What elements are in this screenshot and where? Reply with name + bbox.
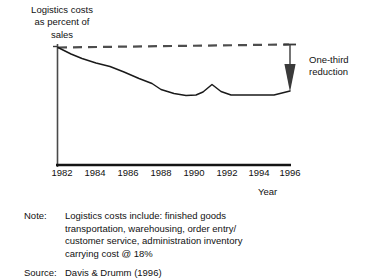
note-line-2: transportation, warehousing, order entry… bbox=[65, 223, 324, 236]
x-tick-label-1986: 1986 bbox=[111, 167, 145, 178]
chart-footnotes: Note: Logistics costs include: finished … bbox=[24, 210, 324, 280]
note-label: Note: bbox=[24, 210, 65, 223]
reduction-annotation-line-2: reduction bbox=[309, 66, 349, 78]
x-axis-label: Year bbox=[258, 186, 277, 197]
source-line-1: Davis & Drumm (1996) bbox=[65, 267, 324, 280]
chart-plot-area: 1982 1984 1986 1988 1990 1992 1994 1996 … bbox=[0, 0, 371, 200]
x-tick-label-1992: 1992 bbox=[210, 167, 244, 178]
series-actual-solid bbox=[58, 48, 290, 96]
x-tick-label-1996: 1996 bbox=[273, 167, 307, 178]
note-line-3: customer service, administration invento… bbox=[65, 235, 324, 248]
note-text: Logistics costs include: finished goods … bbox=[65, 210, 324, 260]
source-row: Source: Davis & Drumm (1996) bbox=[24, 267, 324, 280]
reduction-annotation-line-1: One-third bbox=[309, 54, 349, 66]
x-axis-tick-labels: 1982 1984 1986 1988 1990 1992 1994 1996 bbox=[0, 167, 371, 181]
source-text: Davis & Drumm (1996) bbox=[65, 267, 324, 280]
x-tick-label-1984: 1984 bbox=[78, 167, 112, 178]
x-tick-label-1988: 1988 bbox=[144, 167, 178, 178]
note-line-4: carrying cost @ 18% bbox=[65, 248, 324, 261]
reduction-arrow-head bbox=[284, 64, 295, 92]
note-row: Note: Logistics costs include: finished … bbox=[24, 210, 324, 260]
source-label: Source: bbox=[24, 267, 65, 280]
x-tick-label-1994: 1994 bbox=[242, 167, 276, 178]
series-baseline-dashed bbox=[58, 45, 289, 48]
x-tick-label-1990: 1990 bbox=[177, 167, 211, 178]
one-third-reduction-annotation: One-third reduction bbox=[309, 54, 349, 78]
x-tick-label-1982: 1982 bbox=[45, 167, 79, 178]
note-line-1: Logistics costs include: finished goods bbox=[65, 210, 324, 223]
